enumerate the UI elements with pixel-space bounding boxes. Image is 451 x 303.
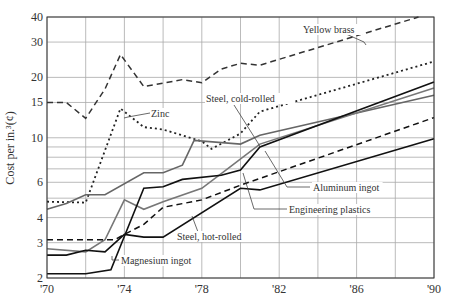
annotation-label: Engineering plastics <box>289 204 370 215</box>
annotation-leader <box>346 34 366 45</box>
annotation-label: Aluminum ingot <box>313 182 380 193</box>
annotation-label: Zinc <box>151 108 170 119</box>
y-tick-label: 3 <box>37 236 43 250</box>
y-tick-label: 4 <box>37 211 43 225</box>
y-tick-label: 40 <box>31 10 43 24</box>
cost-chart: 23461015203040 '70'74'78'82'86'90 Cost p… <box>0 0 451 303</box>
annotation-label: Magnesium ingot <box>121 255 191 266</box>
annotation-leader <box>243 173 287 209</box>
y-tick-label: 10 <box>31 131 43 145</box>
x-tick-label: '90 <box>427 282 441 296</box>
y-axis-ticks: 23461015203040 <box>31 10 43 285</box>
annotation-label: Steel, cold-rolled <box>206 93 275 104</box>
x-tick-label: '86 <box>350 282 364 296</box>
y-tick-label: 30 <box>31 35 43 49</box>
x-axis-ticks: '70'74'78'82'86'90 <box>40 282 441 296</box>
y-tick-label: 15 <box>31 95 43 109</box>
x-tick-label: '78 <box>195 282 209 296</box>
annotation-label: Steel, hot-rolled <box>177 231 241 242</box>
annotation-leader <box>192 216 198 232</box>
x-tick-label: '70 <box>40 282 54 296</box>
x-tick-label: '82 <box>272 282 286 296</box>
annotation-leader <box>124 113 150 118</box>
annotation-label: Yellow brass <box>303 24 355 35</box>
y-tick-label: 6 <box>37 175 43 189</box>
x-tick-label: '74 <box>117 282 131 296</box>
annotations: Yellow brassZincSteel, cold-rolledAlumin… <box>120 24 388 266</box>
y-axis-label: Cost per in.³(¢) <box>3 111 17 184</box>
y-tick-label: 20 <box>31 70 43 84</box>
